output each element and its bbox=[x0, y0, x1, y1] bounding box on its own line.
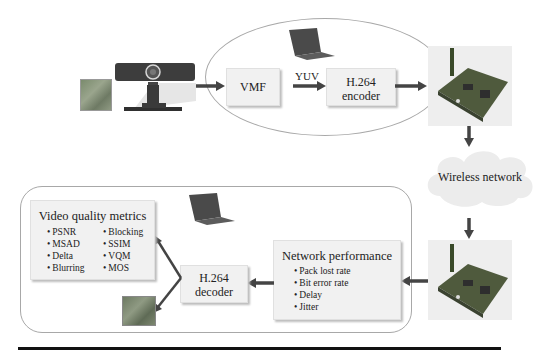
source-video-frame-icon bbox=[80, 79, 112, 111]
network-performance-title: Network performance bbox=[274, 249, 400, 263]
metric-jitter: Jitter bbox=[294, 301, 400, 313]
wireless-board-top-icon bbox=[428, 46, 512, 126]
encoder-label-line2: encoder bbox=[327, 89, 395, 103]
video-quality-metrics-title: Video quality metrics bbox=[31, 209, 154, 223]
metric-pack-lost-rate: Pack lost rate bbox=[294, 265, 400, 277]
metric-delta: Delta bbox=[47, 250, 103, 262]
encoder-box: H.264 encoder bbox=[326, 68, 396, 106]
vmf-label: VMF bbox=[227, 80, 279, 94]
encoder-label-line1: H.264 bbox=[327, 75, 395, 89]
arrow-encoder-to-board bbox=[395, 80, 430, 92]
metrics-column-1: PSNR MSAD Delta Blurring bbox=[47, 226, 103, 274]
wireless-network-label: Wireless network bbox=[420, 170, 540, 185]
network-performance-list: Pack lost rate Bit error rate Delay Jitt… bbox=[294, 265, 400, 313]
metric-psnr: PSNR bbox=[47, 226, 103, 238]
metric-msad: MSAD bbox=[47, 238, 103, 250]
metric-vqm: VQM bbox=[103, 250, 143, 262]
metric-blocking: Blocking bbox=[103, 226, 143, 238]
decoder-label-line2: decoder bbox=[181, 285, 247, 299]
arrow-vmf-to-encoder bbox=[293, 80, 328, 92]
arrow-board-to-network-performance bbox=[400, 275, 428, 287]
arrow-network-performance-to-decoder bbox=[246, 277, 274, 289]
metrics-column-2: Blocking SSIM VQM MOS bbox=[103, 226, 143, 274]
decoder-label-line1: H.264 bbox=[181, 271, 247, 285]
webcam-icon bbox=[114, 61, 196, 113]
arrow-cloud-to-board bbox=[463, 218, 475, 240]
metric-delay: Delay bbox=[294, 289, 400, 301]
arrow-board-to-cloud bbox=[463, 126, 475, 148]
metric-blurring: Blurring bbox=[47, 262, 103, 274]
bottom-rule bbox=[18, 347, 501, 350]
video-quality-metrics-box: Video quality metrics PSNR MSAD Delta Bl… bbox=[30, 200, 155, 280]
decoder-box: H.264 decoder bbox=[180, 265, 248, 303]
arrow-camera-to-vmf bbox=[196, 80, 226, 92]
wireless-network-cloud: Wireless network bbox=[420, 146, 540, 210]
metric-mos: MOS bbox=[103, 262, 143, 274]
output-video-frame-icon bbox=[122, 296, 156, 326]
vmf-box: VMF bbox=[226, 68, 280, 106]
laptop-top-icon bbox=[287, 28, 337, 60]
metric-bit-error-rate: Bit error rate bbox=[294, 277, 400, 289]
metric-ssim: SSIM bbox=[103, 238, 143, 250]
laptop-bottom-icon bbox=[187, 193, 237, 225]
network-performance-box: Network performance Pack lost rate Bit e… bbox=[273, 240, 401, 320]
wireless-board-bottom-icon bbox=[428, 240, 512, 320]
